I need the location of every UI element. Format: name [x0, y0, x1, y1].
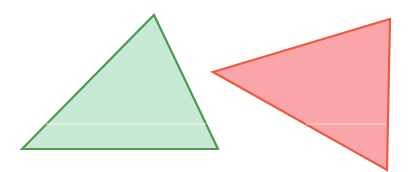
diagram-canvas — [0, 0, 417, 172]
